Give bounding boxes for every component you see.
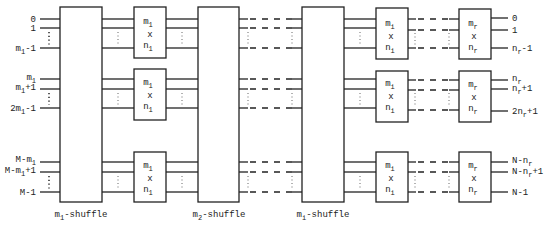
output-label-N-minus-1: N-1 bbox=[512, 188, 528, 198]
wires-stage-i bbox=[344, 19, 376, 192]
mi-shuffle-label: mi-shuffle bbox=[297, 210, 350, 222]
switch-mrxnr-top: mr x nr bbox=[459, 9, 491, 59]
switch-mixni-bottom: mi x ni bbox=[376, 152, 408, 202]
input-label-2m1-minus-1: 2m1-1 bbox=[10, 104, 36, 116]
switch-mrxnr-bottom: mr x nr bbox=[459, 152, 491, 202]
svg-text:x: x bbox=[471, 32, 476, 42]
svg-text:x: x bbox=[147, 91, 152, 101]
switch-mixni-top: mi x ni bbox=[376, 8, 408, 59]
output-label-0: 0 bbox=[512, 14, 517, 24]
switch-m1xn1-bottom: m1 x n1 bbox=[134, 152, 166, 202]
output-label-nr-minus-1: nr-1 bbox=[512, 44, 532, 56]
input-label-m1-minus-1: m1-1 bbox=[16, 44, 36, 56]
svg-text:x: x bbox=[471, 93, 476, 103]
switch-mixni-middle: mi x ni bbox=[376, 71, 408, 122]
output-label-1: 1 bbox=[512, 26, 517, 36]
m1-shuffle-box bbox=[60, 7, 102, 202]
svg-text:x: x bbox=[388, 32, 393, 42]
mi-shuffle-box bbox=[302, 7, 344, 202]
input-label-M-minus-m1-plus-1: M-m1+1 bbox=[5, 166, 36, 178]
input-label-M-minus-1: M-1 bbox=[20, 188, 36, 198]
m1-shuffle-label: m1-shuffle bbox=[55, 210, 108, 222]
switch-m1xn1-top: m1 x n1 bbox=[134, 7, 166, 58]
output-wires bbox=[491, 18, 508, 192]
svg-text:x: x bbox=[471, 174, 476, 184]
input-wires bbox=[40, 19, 60, 192]
wires-stage2 bbox=[166, 19, 198, 192]
m2-shuffle-label: m2-shuffle bbox=[193, 210, 246, 222]
switch-mrxnr-middle: mr x nr bbox=[459, 71, 491, 122]
svg-text:x: x bbox=[388, 174, 393, 184]
shuffle-network-diagram: 0 1 m1-1 m1 m1+1 2m1-1 M-m1 M-m1+1 M-1 m… bbox=[0, 0, 546, 225]
svg-text:x: x bbox=[147, 174, 152, 184]
switch-column-1: m1 x n1 m1 x n1 m1 x n1 bbox=[134, 7, 166, 202]
svg-text:x: x bbox=[147, 30, 152, 40]
wires-elided-stages bbox=[239, 19, 302, 192]
output-label-nr-plus-1: nr+1 bbox=[512, 84, 532, 96]
wires-elided-final bbox=[408, 19, 459, 192]
svg-text:x: x bbox=[388, 92, 393, 102]
wires-stage1 bbox=[102, 19, 134, 192]
input-label-1: 1 bbox=[31, 24, 36, 34]
output-labels: 0 1 nr-1 nr nr+1 2nr+1 N-nr N-nr+1 N-1 bbox=[512, 14, 543, 198]
switch-m1xn1-middle: m1 x n1 bbox=[134, 69, 166, 120]
switch-column-r: mr x nr mr x nr mr x nr bbox=[459, 9, 491, 202]
switch-column-i: mi x ni mi x ni mi x ni bbox=[376, 8, 408, 202]
output-label-N-minus-nr-plus-1: N-nr+1 bbox=[512, 167, 543, 179]
input-label-m1-plus-1: m1+1 bbox=[16, 83, 36, 95]
output-label-2nr-plus-1: 2nr+1 bbox=[512, 107, 538, 119]
m2-shuffle-box bbox=[198, 7, 239, 202]
input-labels: 0 1 m1-1 m1 m1+1 2m1-1 M-m1 M-m1+1 M-1 bbox=[5, 15, 36, 198]
